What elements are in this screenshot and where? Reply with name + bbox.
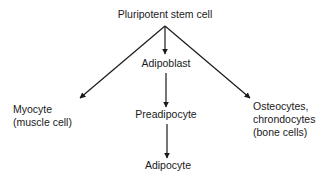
diagram-edges (0, 0, 329, 180)
osteocytes-line-1: Osteocytes, (253, 100, 315, 113)
myocyte-line-1: Myocyte (13, 103, 72, 116)
node-pluripotent-stem-cell: Pluripotent stem cell (118, 8, 213, 21)
node-adipocyte: Adipocyte (145, 159, 191, 172)
node-osteocytes: Osteocytes, chrondocytes (bone cells) (253, 100, 315, 139)
osteocytes-line-2: chrondocytes (253, 113, 315, 126)
node-adipoblast: Adipoblast (141, 57, 190, 70)
node-myocyte: Myocyte (muscle cell) (13, 103, 72, 129)
differentiation-diagram: Pluripotent stem cell Adipoblast Preadip… (0, 0, 329, 180)
node-preadipocyte: Preadipocyte (135, 108, 196, 121)
myocyte-line-2: (muscle cell) (13, 116, 72, 129)
osteocytes-line-3: (bone cells) (253, 126, 315, 139)
